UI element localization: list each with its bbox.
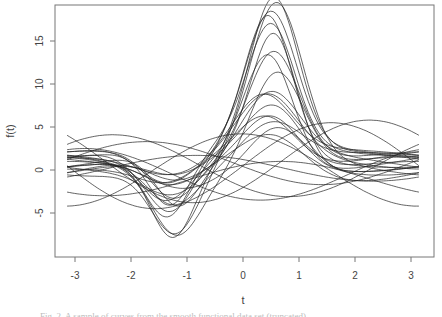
- curve-c4: [67, 11, 419, 211]
- figure-caption: Fig. 2. A sample of curves from the smoo…: [40, 309, 306, 317]
- x-tick-label: 1: [296, 270, 302, 281]
- x-tick-label: -1: [183, 270, 192, 281]
- y-tick-label: 0: [34, 167, 45, 173]
- y-tick-label: -5: [34, 208, 45, 217]
- y-axis-label: f(t): [4, 124, 16, 137]
- y-axis: -5051015: [34, 35, 55, 217]
- x-tick-label: -2: [127, 270, 136, 281]
- x-axis-label: t: [241, 294, 244, 306]
- x-tick-label: 3: [408, 270, 414, 281]
- y-tick-label: 10: [34, 78, 45, 90]
- x-tick-label: 2: [352, 270, 358, 281]
- x-tick-label: 0: [240, 270, 246, 281]
- line-chart: -3-2-10123 -5051015 t f(t): [0, 0, 442, 317]
- y-tick-label: 15: [34, 35, 45, 47]
- plot-frame: [55, 5, 434, 257]
- curve-group: [67, 0, 419, 238]
- y-tick-label: 5: [34, 124, 45, 130]
- x-axis: -3-2-10123: [71, 257, 415, 281]
- curve-c1: [67, 0, 419, 238]
- x-tick-label: -3: [71, 270, 80, 281]
